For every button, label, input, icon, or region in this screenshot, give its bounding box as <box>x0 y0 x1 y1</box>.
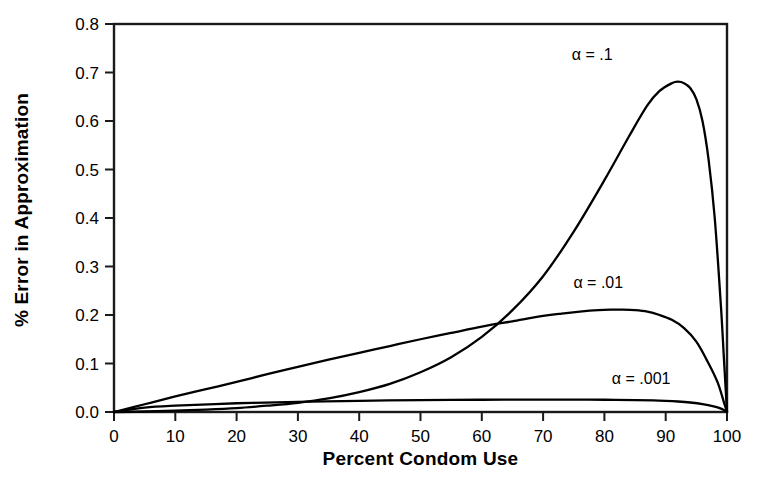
x-tick-label: 80 <box>595 427 614 446</box>
series-annotation-1: α = .01 <box>573 274 623 291</box>
series-line-0 <box>114 82 727 412</box>
series-annotation-2: α = .001 <box>612 370 671 387</box>
x-tick-label: 100 <box>713 427 741 446</box>
x-axis-ticks <box>114 412 727 421</box>
y-tick-label: 0.3 <box>75 258 99 277</box>
chart-figure: 0102030405060708090100 0.00.10.20.30.40.… <box>0 0 761 492</box>
x-tick-label: 70 <box>534 427 553 446</box>
y-axis-tick-labels: 0.00.10.20.30.40.50.60.70.8 <box>75 15 99 422</box>
x-tick-label: 10 <box>166 427 185 446</box>
series-annotation-0: α = .1 <box>572 46 613 63</box>
y-tick-label: 0.5 <box>75 161 99 180</box>
x-axis-title: Percent Condom Use <box>323 448 519 469</box>
x-tick-label: 20 <box>227 427 246 446</box>
y-tick-label: 0.4 <box>75 209 99 228</box>
x-tick-label: 30 <box>288 427 307 446</box>
series-annotation-group: α = .1α = .01α = .001 <box>572 46 671 386</box>
y-tick-label: 0.8 <box>75 15 99 34</box>
plot-frame <box>114 24 727 412</box>
x-tick-label: 50 <box>411 427 430 446</box>
x-tick-label: 60 <box>472 427 491 446</box>
x-tick-label: 90 <box>656 427 675 446</box>
y-tick-label: 0.7 <box>75 64 99 83</box>
y-tick-label: 0.1 <box>75 355 99 374</box>
x-axis-title-wrapper: Percent Condom Use <box>114 448 727 470</box>
y-tick-label: 0.2 <box>75 306 99 325</box>
y-axis-title-wrapper: % Error in Approximation <box>0 0 44 420</box>
error-approximation-line-chart: 0102030405060708090100 0.00.10.20.30.40.… <box>0 0 761 492</box>
y-axis-title: % Error in Approximation <box>11 93 33 327</box>
x-axis-tick-labels: 0102030405060708090100 <box>109 427 741 446</box>
x-tick-label: 0 <box>109 427 118 446</box>
y-tick-label: 0.6 <box>75 112 99 131</box>
y-axis-ticks <box>105 24 114 412</box>
x-tick-label: 40 <box>350 427 369 446</box>
data-series-group <box>114 82 727 412</box>
y-tick-label: 0.0 <box>75 403 99 422</box>
series-line-1 <box>114 310 727 412</box>
